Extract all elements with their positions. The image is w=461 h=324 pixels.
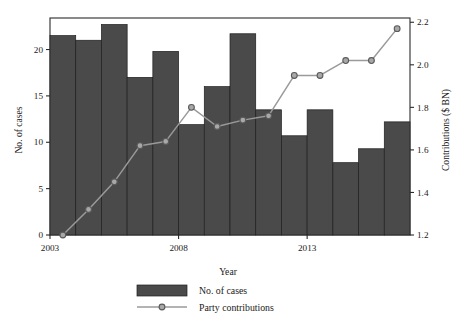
line-marker-2009 [214, 124, 220, 130]
chart-figure: 05101520 1.21.41.61.82.02.2 200320082013… [0, 0, 461, 324]
line-marker-2003 [60, 232, 66, 238]
right-tick-label: 1.4 [417, 188, 429, 198]
dual-axis-bar-line-chart: 05101520 1.21.41.61.82.02.2 200320082013… [0, 0, 461, 324]
line-marker-2015 [369, 58, 375, 64]
line-marker-2011 [266, 113, 272, 119]
left-tick-label: 0 [38, 230, 43, 240]
legend-swatch-cases [137, 285, 187, 296]
bar-2016 [384, 122, 410, 235]
bar-2011 [256, 110, 282, 235]
left-tick-label: 15 [34, 91, 44, 101]
left-tick-label: 20 [34, 45, 44, 55]
right-tick-label: 2.2 [417, 17, 429, 27]
line-marker-2012 [291, 73, 297, 79]
line-marker-2014 [343, 58, 349, 64]
line-marker-2007 [163, 138, 169, 144]
left-axis-title: No. of cases [13, 106, 24, 153]
line-marker-2006 [137, 143, 143, 149]
line-marker-2008 [189, 104, 195, 110]
left-tick-label: 10 [34, 137, 44, 147]
right-axis-title: Contributions ($ BN) [440, 89, 452, 171]
x-tick-label: 2013 [298, 243, 317, 253]
bar-2006 [127, 77, 153, 235]
bar-2010 [230, 34, 256, 235]
bar-2004 [76, 40, 102, 235]
right-tick-label: 2.0 [417, 60, 429, 70]
bar-2005 [101, 24, 127, 235]
right-tick-label: 1.6 [417, 145, 429, 155]
line-marker-2013 [317, 73, 323, 79]
line-marker-2010 [240, 117, 246, 123]
line-marker-2016 [394, 26, 400, 32]
bottom-axis-title: Year [219, 266, 237, 277]
right-tick-label: 1.8 [417, 103, 429, 113]
x-tick-label: 2008 [169, 243, 188, 253]
legend-marker-contributions [159, 304, 165, 310]
bar-2012 [281, 136, 307, 235]
bar-2015 [359, 149, 385, 235]
bar-2003 [50, 36, 76, 235]
right-tick-label: 1.2 [417, 230, 429, 240]
x-tick-label: 2003 [41, 243, 60, 253]
line-marker-2004 [86, 207, 92, 213]
bar-2009 [204, 87, 230, 235]
bar-2008 [179, 125, 205, 235]
left-tick-label: 5 [38, 184, 43, 194]
legend-label-contributions: Party contributions [199, 302, 274, 313]
line-marker-2005 [111, 179, 117, 185]
bar-2014 [333, 163, 359, 235]
bar-2013 [307, 110, 333, 235]
legend-label-cases: No. of cases [199, 285, 247, 296]
